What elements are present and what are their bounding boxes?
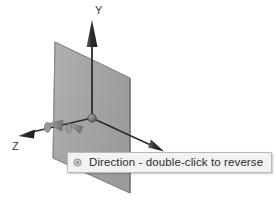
tooltip-label: Direction - double-click to reverse [89,156,263,169]
origin-node[interactable] [88,114,96,122]
direction-tooltip: Direction - double-click to reverse [67,152,272,173]
dot-icon [73,158,82,167]
axis-label-y: Y [95,4,103,16]
axis-label-z: Z [12,140,19,152]
scene-viewport: Z X Y Direction - double-click to r [0,0,276,206]
axis-widget-canvas: Z X Y [0,0,276,206]
